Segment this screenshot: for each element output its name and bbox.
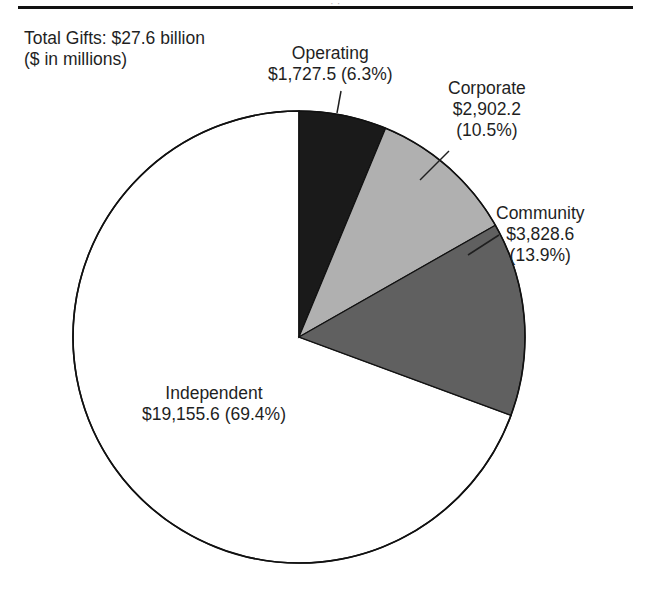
slice-label-corporate: Corporate $2,902.2 (10.5%) [448,78,526,141]
slice-label-operating: Operating $1,727.5 (6.3%) [268,43,393,85]
operating-value: $1,727.5 (6.3%) [268,64,393,85]
community-percent: (13.9%) [496,245,585,266]
corporate-value: $2,902.2 [448,99,526,120]
total-gifts-line1: Total Gifts: $27.6 billion [24,28,205,49]
community-name: Community [496,203,585,224]
total-gifts-line2: ($ in millions) [24,49,205,70]
pie-chart-figure: · · Total Gifts: $27.6 billion ($ in mil… [0,0,645,604]
leader-line-operating [337,91,341,113]
community-value: $3,828.6 [496,224,585,245]
independent-name: Independent [142,383,286,404]
independent-value: $19,155.6 (69.4%) [142,404,286,425]
corporate-name: Corporate [448,78,526,99]
operating-name: Operating [268,43,393,64]
pie-chart-graphic [0,0,645,604]
corporate-percent: (10.5%) [448,120,526,141]
total-gifts-caption: Total Gifts: $27.6 billion ($ in million… [24,28,205,70]
slice-label-community: Community $3,828.6 (13.9%) [496,203,585,266]
slice-label-independent: Independent $19,155.6 (69.4%) [142,383,286,425]
